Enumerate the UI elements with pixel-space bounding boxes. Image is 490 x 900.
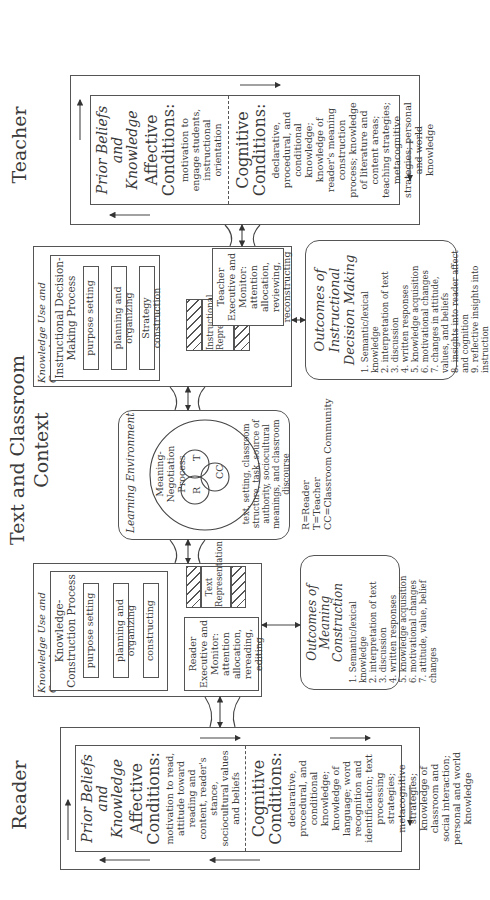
teacher-outcome-3: 3. discussion (390, 247, 400, 373)
reader-outcome-2: 2. interpretation of text (368, 562, 378, 683)
reader-executive-box: Reader Executive and Monitor: attention … (184, 617, 259, 691)
venn-r-label: R (191, 487, 202, 494)
teacher-outcome-2: 2. interpretation of text (380, 247, 390, 373)
teacher-outcome-6: 6. motivational changes (420, 247, 430, 373)
text-representation-label: Text Representation (201, 566, 231, 608)
teacher-prior-box: Prior Beliefs and Knowledge Affective Co… (90, 95, 400, 205)
teacher-cognitive-text: declarative, procedural, and conditional… (270, 99, 435, 201)
teacher-affective-text: motivation to engage students, instructi… (179, 99, 223, 201)
teacher-step-purpose: purpose setting (83, 266, 99, 370)
hatch-top (186, 566, 201, 608)
reader-executive-title: Reader Executive and Monitor: (187, 618, 220, 690)
reader-outcome-3: 3. discussion (378, 562, 388, 683)
teacher-cognitive-title: Cognitive Conditions: (234, 99, 268, 201)
teacher-divider (228, 96, 229, 204)
reader-process-box: Knowledge-Construction Process purpose s… (50, 571, 168, 691)
reader-outcome-4: 4. written responses (388, 562, 398, 683)
legend-cc: CC=Classroom Community (322, 398, 333, 530)
teacher-outcome-4: 4. written responses (400, 247, 410, 373)
reader-cognitive-text: declarative, procedural, and conditional… (286, 749, 473, 848)
teacher-executive-title: Teacher Executive and Monitor: (215, 249, 248, 325)
reader-outcome-7: 7. attitude, value, belief changes (418, 562, 438, 683)
reader-prior-box: Prior Beliefs and Knowledge Affective Co… (75, 745, 402, 852)
teacher-heading: Teacher (8, 80, 30, 210)
reader-prior-title: Prior Beliefs and Knowledge (80, 749, 125, 848)
venn-t-label: T (191, 455, 202, 461)
legend-t: T=Teacher (311, 398, 322, 530)
teacher-outcomes-box: Outcomes of Instructional Decision Makin… (305, 240, 457, 380)
teacher-outcomes-title: Outcomes of Instructional Decision Makin… (312, 247, 357, 373)
reader-affective-text: motivation to read, attitude toward read… (164, 749, 241, 848)
learning-environment-box: Learning Environment Meaning-Negotiation… (118, 410, 290, 540)
teacher-outcome-7: 7. changes in attitude, values, and beli… (430, 247, 450, 373)
reader-knowledge-box: Knowledge Use and Control Knowledge-Cons… (33, 563, 262, 697)
teacher-process-title: Instructional Decision-Making Process (53, 256, 77, 380)
teacher-step-planning: planning and organizing (111, 266, 127, 370)
teacher-outcome-8: 8. insights into reader affect and cogni… (450, 247, 470, 373)
teacher-process-box: Instructional Decision-Making Process pu… (50, 255, 160, 381)
reader-outcome-6: 6. motivational changes (408, 562, 418, 683)
reader-outcome-1: 1. Semantic/lexical knowledge (348, 562, 368, 683)
venn-cc-label: CC (214, 464, 225, 479)
reader-heading: Reader (8, 730, 30, 860)
teacher-step-strategy: Strategy construction (139, 266, 155, 370)
legend: R=Reader T=Teacher CC=Classroom Communit… (300, 398, 333, 530)
teacher-outcome-9: 9. reflective insights into instruction (470, 247, 490, 373)
reader-outcome-5: 5. knowledge acquisition (398, 562, 408, 683)
reader-outcomes-title: Outcomes of Meaning Construction (306, 562, 345, 683)
reader-affective-title: Affective Conditions: (128, 749, 162, 848)
teacher-affective-title: Affective Conditions: (143, 99, 177, 201)
teacher-knowledge-box: Knowledge Use and Control Instructional … (33, 246, 292, 387)
reader-cognitive-title: Cognitive Conditions: (250, 749, 284, 848)
teacher-executive-box: Teacher Executive and Monitor: attention… (212, 248, 284, 326)
reader-step-purpose: purpose setting (83, 583, 99, 678)
text-representation-block: Text Representation (186, 566, 246, 608)
reader-step-planning: planning and organizing (113, 583, 129, 678)
hatch-bottom (231, 566, 246, 608)
teacher-outcome-5: 5. knowledge acquisition (410, 247, 420, 373)
teacher-outcome-1: 1. Semantic/lexical knowledge (360, 247, 380, 373)
legend-r: R=Reader (300, 398, 311, 530)
reader-executive-text: attention allocation, rereading, editing (220, 618, 264, 690)
reader-step-constructing: constructing (143, 583, 159, 678)
reader-process-title: Knowledge-Construction Process (53, 572, 77, 690)
teacher-prior-title: Prior Beliefs and Knowledge (95, 99, 140, 201)
learning-environment-label: Learning Environment (124, 413, 136, 533)
meaning-negotiation-label: Meaning-Negotiation Process (154, 444, 187, 504)
hatch-top (186, 299, 202, 351)
reader-outcomes-box: Outcomes of Meaning Construction 1. Sema… (300, 555, 400, 690)
environment-description: text, setting, classroom structure, task… (241, 419, 291, 529)
reader-divider (245, 746, 246, 851)
teacher-executive-text: attention allocation, reviewing, reconst… (248, 249, 292, 325)
